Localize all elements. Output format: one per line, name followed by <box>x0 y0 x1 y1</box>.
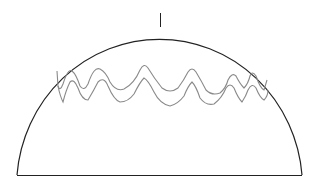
dome-drawing <box>0 0 317 194</box>
wavy-band-lower <box>58 78 268 106</box>
wavy-band-upper <box>57 65 267 94</box>
dome-outline <box>17 39 302 175</box>
